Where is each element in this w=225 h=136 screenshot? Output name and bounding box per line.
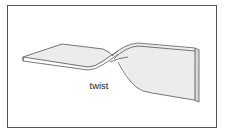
twisted-strip-illustration: [0, 0, 225, 136]
twist-label: twist: [84, 80, 114, 91]
